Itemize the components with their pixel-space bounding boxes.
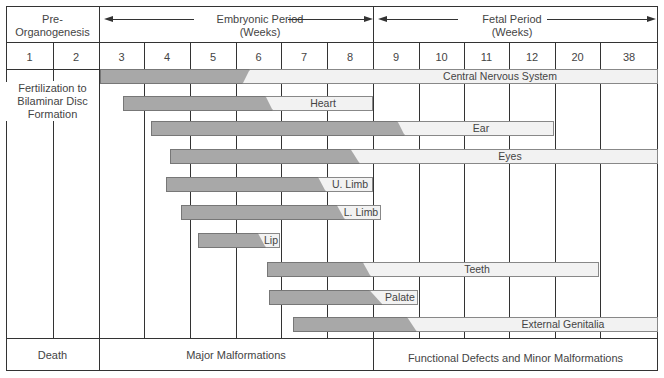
week-line <box>555 42 556 338</box>
bar-external-genitalia: External Genitalia <box>293 317 658 332</box>
critical-segment <box>181 205 345 220</box>
bar-heart: Heart <box>123 96 373 111</box>
bar-lip: Lip <box>198 233 280 248</box>
bar-label: Teeth <box>377 262 577 277</box>
bar-label: Eyes <box>370 149 650 164</box>
week-label: 5 <box>190 51 236 63</box>
pre-line2: Organogenesis <box>6 26 99 39</box>
pre-line1: Pre- <box>6 13 99 26</box>
note-line3: Formation <box>6 108 99 121</box>
critical-segment <box>151 121 405 136</box>
week-label: 11 <box>464 51 509 63</box>
week-label: 6 <box>236 51 281 63</box>
arrow-left-icon <box>378 16 387 22</box>
bar-teeth: Teeth <box>267 262 599 277</box>
bar-label: Central Nervous System <box>400 69 600 84</box>
embryonic-arrow-right <box>288 19 366 20</box>
week-label: 10 <box>419 51 464 63</box>
bar-palate: Palate <box>269 290 418 305</box>
embryonic-period-label: Embryonic Period (Weeks) <box>190 13 330 39</box>
week-label: 12 <box>509 51 555 63</box>
week-line <box>144 42 145 338</box>
bar-ear: Ear <box>151 121 554 136</box>
fetal-line2: (Weeks) <box>452 26 572 39</box>
week-label: 3 <box>99 51 144 63</box>
fetal-arrow-right <box>547 19 647 20</box>
arrow-left-icon <box>104 16 113 22</box>
footer-death: Death <box>6 349 99 362</box>
bar-label: L. Limb <box>341 205 381 220</box>
bar-lower-limb: L. Limb <box>181 205 381 220</box>
note-line2: Bilaminar Disc <box>6 95 99 108</box>
bar-label: Ear <box>411 121 551 136</box>
week-line <box>600 42 601 338</box>
bar-eyes: Eyes <box>170 149 658 164</box>
week-line <box>509 42 510 338</box>
note-line1: Fertilization to <box>6 82 99 95</box>
critical-segment <box>267 262 371 277</box>
fetal-arrow-left <box>382 19 458 20</box>
bar-central-nervous-system: Central Nervous System <box>100 69 658 84</box>
critical-segment <box>198 233 266 248</box>
footer-major-malformations: Major Malformations <box>99 349 373 362</box>
critical-segment <box>170 149 360 164</box>
embryonic-arrow-left <box>108 19 194 20</box>
bar-upper-limb: U. Limb <box>166 177 373 192</box>
week-label: 9 <box>373 51 419 63</box>
week-line <box>53 69 54 81</box>
week-label: 4 <box>144 51 190 63</box>
critical-segment <box>293 317 417 332</box>
week-label: 2 <box>53 51 99 63</box>
arrow-right-icon <box>647 16 656 22</box>
week-label: 38 <box>600 51 658 63</box>
week-line <box>464 42 465 338</box>
week-line <box>53 118 54 338</box>
critical-segment <box>123 96 273 111</box>
fetal-period-label: Fetal Period (Weeks) <box>452 13 572 39</box>
bar-label: Lip <box>260 233 282 248</box>
critical-segment <box>166 177 326 192</box>
week-label: 7 <box>281 51 327 63</box>
footer-minor-malformations: Functional Defects and Minor Malformatio… <box>373 352 658 365</box>
footer-divider <box>6 338 658 339</box>
week-label: 20 <box>555 51 600 63</box>
week-label: 1 <box>6 51 53 63</box>
bar-label: Heart <box>283 96 363 111</box>
critical-segment <box>269 290 383 305</box>
arrow-right-icon <box>364 16 373 22</box>
pre-organogenesis-label: Pre- Organogenesis <box>6 13 99 39</box>
header-divider <box>6 42 658 43</box>
critical-segment <box>100 69 250 84</box>
embryonic-line2: (Weeks) <box>190 26 330 39</box>
bar-label: U. Limb <box>326 177 374 192</box>
week-label: 8 <box>327 51 373 63</box>
bar-label: External Genitalia <box>473 317 653 332</box>
bar-label: Palate <box>381 290 419 305</box>
fertilization-note: Fertilization to Bilaminar Disc Formatio… <box>6 82 99 121</box>
week-line <box>419 42 420 338</box>
